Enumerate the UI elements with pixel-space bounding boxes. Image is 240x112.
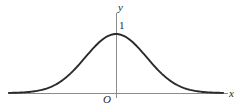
figure-canvas [0, 0, 240, 112]
x-axis-label: x [229, 88, 234, 99]
bell-curve-figure: y x O 1 [0, 0, 240, 112]
origin-label: O [103, 94, 111, 105]
y-tick-label-1: 1 [119, 20, 125, 31]
y-axis-label: y [118, 2, 123, 13]
